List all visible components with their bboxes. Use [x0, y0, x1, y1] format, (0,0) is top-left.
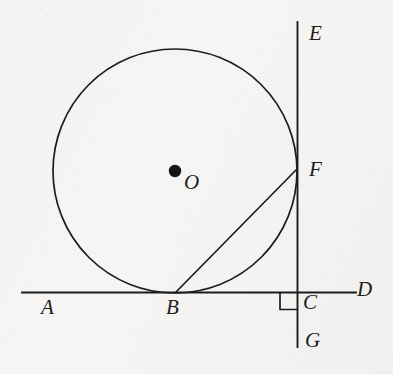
- label-G: G: [305, 330, 320, 351]
- label-A: A: [41, 297, 54, 318]
- geometry-figure: A B C D E F G O: [0, 0, 393, 374]
- center-point-dot: [169, 165, 181, 177]
- label-F: F: [309, 159, 322, 180]
- label-B: B: [166, 297, 179, 318]
- right-angle-marker: [280, 293, 298, 310]
- label-D: D: [357, 279, 372, 300]
- label-E: E: [309, 23, 322, 44]
- label-O: O: [184, 172, 199, 193]
- label-C: C: [303, 292, 317, 313]
